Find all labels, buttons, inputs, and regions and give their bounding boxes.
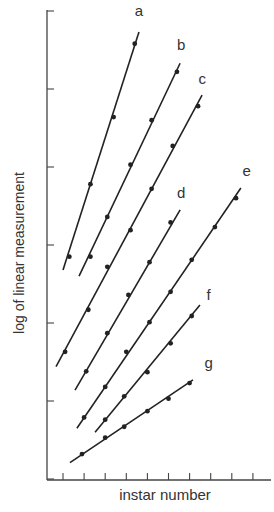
data-point [105,215,110,220]
data-point [168,289,173,294]
data-point [213,225,218,230]
data-point [124,349,129,354]
data-point [88,254,93,259]
data-point [82,415,87,420]
data-point [170,144,175,149]
data-point [149,186,154,191]
data-point [86,307,91,312]
x-axis-label: instar number [100,486,230,503]
data-point [88,182,93,187]
series-label-c: c [199,70,207,87]
data-point [189,314,194,319]
series-line-e [77,188,241,428]
data-point [166,396,171,401]
data-point [103,435,108,440]
data-point [111,115,116,120]
data-point [63,349,68,354]
series-label-a: a [135,2,144,19]
data-point [149,118,154,123]
data-point [168,341,173,346]
data-point [128,228,133,233]
data-point [103,385,108,390]
data-point [168,220,173,225]
data-point [196,104,201,109]
data-point [80,452,85,457]
series-label-d: d [177,184,185,201]
series-label-g: g [204,354,212,371]
data-point [132,41,137,46]
data-point [103,417,108,422]
data-point [126,293,131,298]
series-line-g [70,380,193,463]
data-point [175,69,180,74]
data-point [145,370,150,375]
data-point [105,331,110,336]
chart-plot: abcdefg [0,0,274,512]
data-point [234,196,239,201]
data-point [187,381,192,386]
data-point [122,394,127,399]
series-label-f: f [207,286,212,303]
data-point [67,254,72,259]
series-label-e: e [242,162,250,179]
data-point [128,162,133,167]
data-point [84,369,89,374]
data-point [147,320,152,325]
data-point [189,257,194,262]
series-label-b: b [177,36,185,53]
data-point [145,409,150,414]
data-point [105,264,110,269]
data-point [147,260,152,265]
data-point [122,424,127,429]
y-axis-label: log of linear measurement [11,168,27,338]
